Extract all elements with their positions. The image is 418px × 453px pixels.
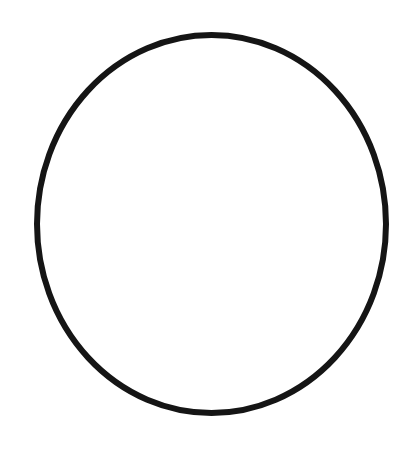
ellipse-outline <box>37 35 386 413</box>
drawing-canvas <box>0 0 418 453</box>
